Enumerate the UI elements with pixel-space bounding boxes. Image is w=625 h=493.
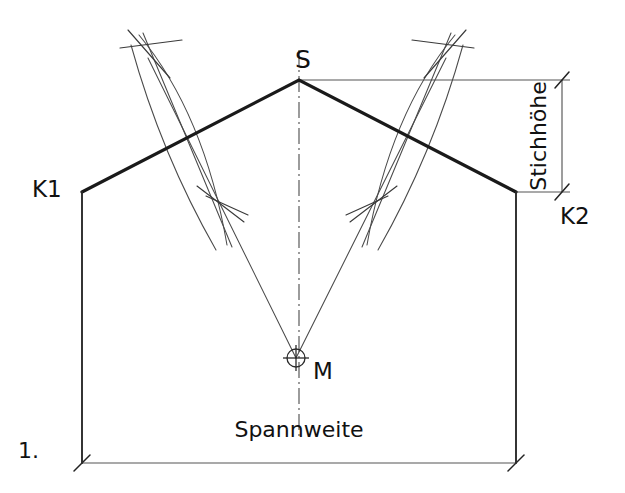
right-perpendicular-bisector: [362, 33, 451, 247]
construction-lines: [120, 30, 474, 358]
left-upper-intersection-tick-a: [120, 40, 182, 48]
right-lower-intersection-tick-a: [350, 186, 397, 222]
left-perpendicular-bisector: [143, 33, 232, 247]
span-dimension-label: Spannweite: [234, 417, 363, 442]
left-lower-intersection-tick-b: [206, 196, 248, 215]
right-upper-intersection-tick-b: [424, 30, 466, 78]
center-point-marker: [283, 345, 309, 371]
right-lower-intersection-tick-b: [346, 196, 388, 215]
apex-label: S: [295, 45, 311, 74]
left-lower-intersection-tick-a: [197, 186, 244, 222]
left-upper-intersection-tick-b: [128, 30, 170, 78]
rise-dimension-label: Stichhöhe: [526, 81, 551, 191]
right-radius-ray-to-center: [296, 58, 446, 358]
figure-number-label: 1.: [18, 438, 39, 463]
drawing-canvas: S K1 K2 M Spannweite Stichhöhe 1.: [0, 0, 625, 493]
technical-drawing-figure: S K1 K2 M Spannweite Stichhöhe 1.: [0, 0, 625, 493]
left-radius-ray-to-center: [148, 58, 296, 358]
center-label: M: [313, 358, 333, 384]
dimension-lines: [74, 72, 570, 471]
right-arc-from-upper-center: [378, 45, 463, 250]
right-corner-label: K2: [560, 203, 590, 229]
left-arc-from-upper-center: [131, 45, 216, 250]
left-corner-label: K1: [32, 176, 62, 202]
right-upper-intersection-tick-a: [412, 40, 474, 48]
